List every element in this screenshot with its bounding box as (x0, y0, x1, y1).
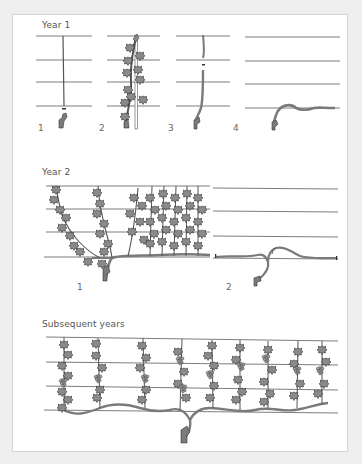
year2-step1-vine (49, 186, 210, 281)
year2-step2-vine (215, 248, 337, 286)
subsequent-vine (57, 337, 331, 443)
year1-step2-vine (120, 34, 148, 129)
year1-step4-vine (272, 105, 335, 130)
vine-training-illustration (0, 0, 362, 464)
year2-wires (44, 186, 338, 259)
subsequent-wires (44, 337, 338, 413)
year1-wires (36, 36, 340, 108)
